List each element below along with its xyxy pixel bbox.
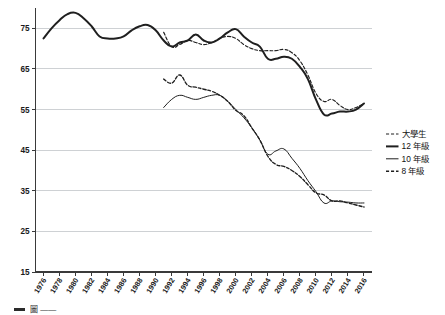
- x-tick-label-1982: 1982: [80, 276, 96, 295]
- x-tick-label-1992: 1992: [160, 276, 176, 295]
- chart-canvas: 15253545556575 1976197819801982198419861…: [0, 0, 445, 315]
- y-tick-label-55: 55: [20, 106, 30, 115]
- x-tick-label-2012: 2012: [320, 276, 336, 295]
- x-tick-label-1980: 1980: [64, 276, 80, 295]
- caption-rule-icon: [14, 308, 25, 311]
- x-tick-label-2002: 2002: [240, 276, 256, 295]
- series-line-grade-12: [44, 12, 364, 115]
- x-tick-label-2008: 2008: [288, 276, 304, 295]
- x-tick-label-2014: 2014: [337, 276, 354, 295]
- gridlines-group: [36, 28, 373, 272]
- chart-legend: 大學生12 年級10 年級8 年級: [386, 129, 430, 176]
- figure-caption: 圖 ——: [14, 305, 314, 315]
- legend-label-grade-10[interactable]: 10 年級: [402, 154, 431, 164]
- y-tick-label-15: 15: [20, 268, 30, 277]
- x-tick-label-2000: 2000: [224, 276, 240, 295]
- x-tick-label-1976: 1976: [32, 276, 48, 295]
- x-tick-label-1986: 1986: [112, 276, 128, 295]
- series-line-grade-10: [164, 95, 364, 204]
- caption-text: 圖 ——: [30, 305, 56, 314]
- y-tick-labels-group: 15253545556575: [20, 24, 35, 277]
- legend-label-college[interactable]: 大學生: [402, 129, 426, 139]
- y-tick-label-35: 35: [20, 187, 30, 196]
- y-tick-label-65: 65: [20, 65, 30, 74]
- x-tick-labels-group: 1976197819801982198419861988199019921994…: [32, 276, 369, 295]
- x-tick-label-2006: 2006: [272, 276, 288, 295]
- x-tick-label-1990: 1990: [144, 276, 160, 295]
- x-tick-marks-group: [44, 272, 364, 276]
- x-tick-label-1988: 1988: [128, 276, 144, 295]
- x-tick-label-1994: 1994: [176, 276, 193, 295]
- line-chart: 15253545556575 1976197819801982198419861…: [0, 0, 445, 315]
- x-tick-label-1984: 1984: [96, 276, 113, 295]
- series-line-grade-8: [164, 75, 364, 207]
- axes-group: [36, 8, 373, 272]
- x-tick-label-1996: 1996: [192, 276, 208, 295]
- y-tick-label-45: 45: [20, 146, 30, 155]
- legend-label-grade-8[interactable]: 8 年級: [402, 166, 426, 176]
- y-tick-label-75: 75: [20, 24, 30, 33]
- legend-label-grade-12[interactable]: 12 年級: [402, 141, 431, 151]
- x-tick-label-2010: 2010: [304, 276, 320, 295]
- x-tick-label-1998: 1998: [208, 276, 224, 295]
- x-tick-label-2016: 2016: [353, 276, 369, 295]
- series-line-college: [164, 32, 364, 109]
- x-tick-label-1978: 1978: [48, 276, 64, 295]
- y-tick-label-25: 25: [20, 227, 30, 236]
- x-tick-label-2004: 2004: [256, 276, 273, 295]
